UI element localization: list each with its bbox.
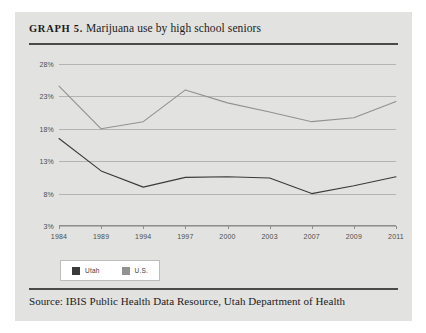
- series-line-us: [59, 86, 396, 129]
- x-axis-label: 1997: [177, 233, 193, 240]
- x-axis-tick: 2011: [396, 226, 397, 229]
- x-axis-label: 2000: [219, 233, 235, 240]
- legend-item-utah: Utah: [72, 267, 100, 275]
- legend-label: U.S.: [135, 267, 148, 274]
- series-line-utah: [59, 139, 396, 194]
- legend-swatch: [72, 267, 80, 275]
- series-lines: [59, 64, 396, 226]
- x-axis-label: 2003: [261, 233, 277, 240]
- x-axis-tick: 1984: [59, 226, 60, 229]
- source-divider: [29, 288, 398, 290]
- y-axis-label: 23%: [39, 93, 54, 100]
- x-axis-tick: 2009: [354, 226, 355, 229]
- plot-area: 3%8%13%18%23%28% 19841989199419972000200…: [59, 64, 396, 226]
- y-axis-label: 3%: [43, 223, 54, 230]
- source-caption: Source: IBIS Public Health Data Resource…: [29, 295, 398, 307]
- legend-item-us: U.S.: [122, 267, 148, 275]
- x-axis-label: 1989: [93, 233, 109, 240]
- x-axis-tick: 1989: [101, 226, 102, 229]
- chart-container: 3%8%13%18%23%28% 19841989199419972000200…: [29, 56, 398, 252]
- x-axis-label: 2011: [388, 233, 404, 240]
- legend-label: Utah: [85, 267, 100, 274]
- y-axis-label: 18%: [39, 125, 54, 132]
- title-divider: [29, 43, 398, 45]
- x-axis-tick: 1994: [143, 226, 144, 229]
- page-title: GRAPH 5. Marijuana use by high school se…: [29, 22, 399, 34]
- x-axis-tick: 2000: [228, 226, 229, 229]
- y-axis-label: 13%: [39, 158, 54, 165]
- x-axis-tick: 1997: [185, 226, 186, 229]
- y-axis-label: 8%: [43, 190, 54, 197]
- x-axis-label: 1994: [135, 233, 151, 240]
- figure-label: GRAPH 5.: [29, 23, 83, 34]
- x-axis-label: 2009: [346, 233, 362, 240]
- legend-swatch: [122, 267, 130, 275]
- x-axis-tick: 2007: [312, 226, 313, 229]
- x-axis-label: 2007: [304, 233, 320, 240]
- x-axis-label: 1984: [51, 233, 67, 240]
- chart-legend: UtahU.S.: [60, 260, 160, 281]
- figure-card: GRAPH 5. Marijuana use by high school se…: [15, 12, 412, 321]
- figure-title: Marijuana use by high school seniors: [86, 22, 261, 34]
- x-axis-tick: 2003: [270, 226, 271, 229]
- y-axis-label: 28%: [39, 61, 54, 68]
